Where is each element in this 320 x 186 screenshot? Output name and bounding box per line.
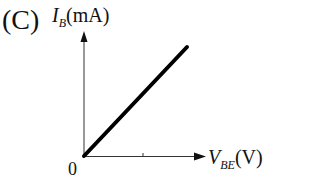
ib-vbe-line <box>84 47 187 156</box>
x-axis-arrow-icon <box>194 153 206 161</box>
x-axis-label: VBE(V) <box>208 144 263 178</box>
y-axis-arrow-icon <box>81 31 88 42</box>
x-axis-subscript: BE <box>220 158 235 172</box>
origin-label: 0 <box>68 158 77 180</box>
x-axis-unit: (V) <box>235 146 263 168</box>
x-axis-symbol: V <box>208 146 220 168</box>
